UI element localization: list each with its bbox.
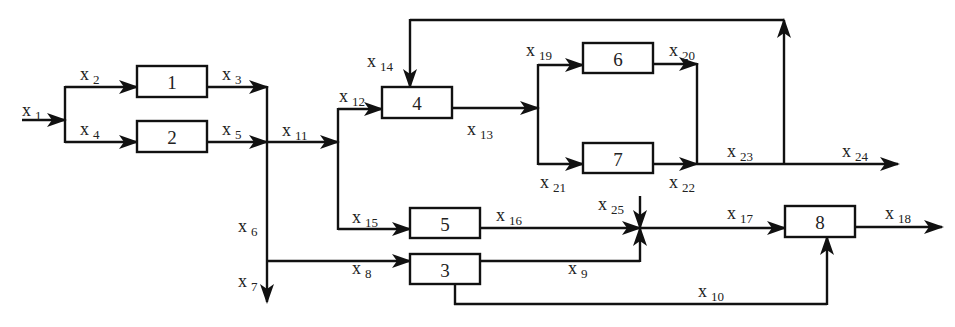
unit-box-4: 4 <box>382 87 452 118</box>
unit-box-label: 4 <box>412 93 422 114</box>
unit-box-label: 7 <box>613 149 623 170</box>
stream-label-x14: x14 <box>367 51 394 74</box>
unit-box-label: 1 <box>167 72 177 93</box>
stream-label-x22: x22 <box>669 172 695 195</box>
flow-lines <box>22 19 942 305</box>
stream-label-x20: x20 <box>669 40 695 63</box>
unit-box-label: 8 <box>815 212 825 233</box>
unit-box-3: 3 <box>410 254 480 284</box>
stream-label-x25: x25 <box>598 194 624 217</box>
unit-box-label: 6 <box>613 49 623 70</box>
stream-label-x19: x19 <box>526 40 552 63</box>
unit-box-6: 6 <box>583 43 653 73</box>
stream-label-x16: x16 <box>496 205 523 228</box>
stream-label-x3: x3 <box>222 64 242 87</box>
unit-box-5: 5 <box>410 208 480 238</box>
unit-box-8: 8 <box>785 206 855 237</box>
process-flow-diagram: 12345678 x1x2x3x4x5x6x7x8x9x10x11x12x13x… <box>0 0 955 327</box>
unit-box-2: 2 <box>137 121 207 152</box>
stream-label-x17: x17 <box>727 203 754 226</box>
stream-label-x4: x4 <box>80 119 100 142</box>
stream-label-x6: x6 <box>238 216 258 239</box>
unit-box-label: 5 <box>440 214 450 235</box>
unit-box-label: 3 <box>440 260 450 281</box>
stream-label-x2: x2 <box>80 64 100 87</box>
stream-label-x21: x21 <box>540 172 566 195</box>
unit-box-1: 1 <box>137 66 207 97</box>
stream-label-x13: x13 <box>467 119 493 142</box>
stream-label-x11: x11 <box>282 120 308 143</box>
stream-label-x7: x7 <box>238 271 258 294</box>
stream-label-x18: x18 <box>885 203 911 226</box>
unit-box-7: 7 <box>583 143 653 173</box>
stream-label-x5: x5 <box>222 119 242 142</box>
stream-label-x23: x23 <box>727 141 753 164</box>
stream-label-x10: x10 <box>698 281 724 304</box>
unit-box-label: 2 <box>167 127 177 148</box>
stream-label-x15: x15 <box>352 207 378 230</box>
stream-label-x24: x24 <box>842 141 869 164</box>
stream-label-x12: x12 <box>339 86 365 109</box>
